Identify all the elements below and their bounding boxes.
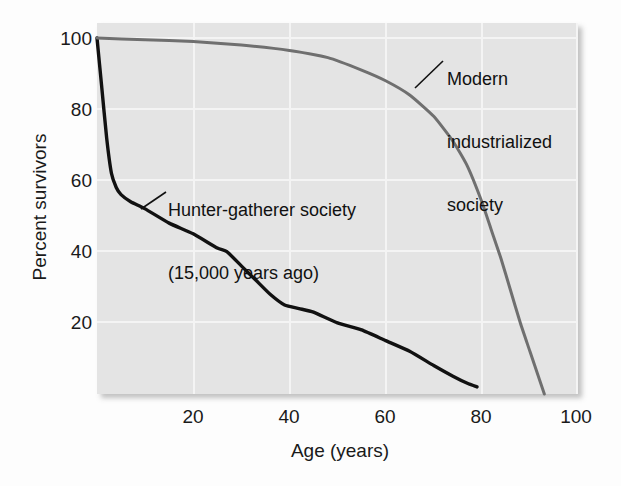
annotation-leader-line-modern-industrialized xyxy=(415,61,443,88)
annotation-hunter-gatherer: Hunter-gatherer society (15,000 years ag… xyxy=(168,158,356,326)
x-tick-label-100: 100 xyxy=(546,406,606,428)
annotation-modern-line-3: society xyxy=(447,195,552,216)
annotation-modern-line-1: Modern xyxy=(447,69,552,90)
annotation-hunter-line-1: Hunter-gatherer society xyxy=(168,200,356,221)
x-tick-label-20: 20 xyxy=(163,406,223,428)
x-tick-label-40: 40 xyxy=(259,406,319,428)
annotation-modern-line-2: industrialized xyxy=(447,132,552,153)
x-tick-label-80: 80 xyxy=(451,406,511,428)
y-tick-label-20: 20 xyxy=(32,312,92,334)
annotation-modern-industrialized: Modern industrialized society xyxy=(447,27,552,258)
x-tick-label-60: 60 xyxy=(355,406,415,428)
annotation-hunter-line-2: (15,000 years ago) xyxy=(168,263,356,284)
y-tick-label-100: 100 xyxy=(32,28,92,50)
y-axis-title: Percent survivors xyxy=(29,107,51,307)
survivorship-curve-figure: 100 80 60 40 20 20 40 60 80 100 Percent … xyxy=(0,0,621,486)
annotation-leader-line-hunter-gatherer xyxy=(141,192,166,209)
x-axis-title: Age (years) xyxy=(180,440,500,462)
